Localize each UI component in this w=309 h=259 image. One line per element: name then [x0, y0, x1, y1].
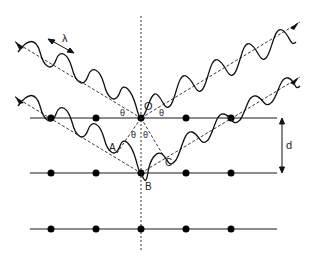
ray-arrowheads: [15, 22, 299, 104]
theta-incident-label: θ: [120, 108, 125, 118]
spacing-arrow: [280, 118, 285, 173]
wavelength-label: λ: [62, 32, 68, 44]
theta-right-inner-label: θ: [143, 130, 148, 140]
spacing-label: d: [286, 139, 292, 151]
origin-label: O: [144, 100, 153, 112]
atomic-layer-3: [30, 226, 277, 233]
point-b-label: B: [145, 181, 152, 192]
theta-reflected-label: θ: [159, 108, 164, 118]
point-a-label: A: [109, 142, 116, 153]
wavelength-arrow: [48, 39, 74, 53]
wave-lower: [18, 78, 300, 181]
atomic-layer-2: [30, 170, 277, 177]
theta-left-inner-label: θ: [131, 130, 136, 140]
bragg-diagram: λ O A B C θ θ θ θ d: [0, 0, 309, 259]
point-c-label: C: [165, 157, 172, 168]
